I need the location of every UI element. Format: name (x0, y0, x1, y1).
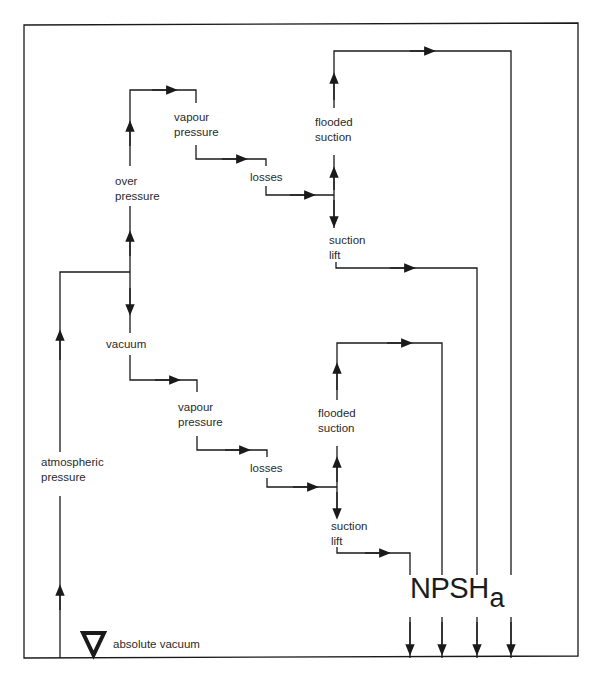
upper-vapour-line (196, 145, 266, 166)
over-pressure-label: over pressure (115, 174, 160, 204)
label-line: pressure (115, 189, 160, 204)
label-line: pressure (178, 415, 223, 430)
lower-losses-line (267, 478, 337, 487)
upper-losses-line (266, 186, 334, 195)
absolute-vacuum-label: absolute vacuum (113, 637, 200, 652)
label-line: lift (331, 534, 367, 549)
lower-suction-lift-label: suction lift (331, 519, 367, 549)
npsh-subscript: a (490, 583, 505, 613)
upper-vapour-pressure-label: vapour pressure (174, 110, 219, 140)
npsh-available-label: NPSHa (410, 572, 504, 605)
npsh-main-text: NPSH (410, 572, 489, 604)
label-line: lift (329, 248, 365, 263)
lower-suction-lift-line (337, 547, 410, 658)
label-line: over (115, 174, 160, 189)
upper-suction-lift-label: suction lift (329, 233, 365, 263)
atmospheric-pressure-label: atmospheric pressure (41, 455, 104, 485)
upper-flooded-line-upper (334, 51, 511, 658)
label-line: vapour (178, 400, 223, 415)
label-line: suction (329, 233, 365, 248)
atmospheric-pressure-line-top (60, 272, 130, 452)
label-line: suction (318, 421, 356, 436)
label-line: flooded (318, 406, 356, 421)
label-line: suction (331, 519, 367, 534)
lower-vapour-line (197, 436, 267, 457)
inverted-triangle-icon (83, 633, 104, 655)
label-line: vapour (174, 110, 219, 125)
label-line: flooded (315, 115, 353, 130)
lower-flooded-suction-label: flooded suction (318, 406, 356, 436)
lower-losses-label: losses (250, 461, 283, 476)
vacuum-label: vacuum (106, 337, 146, 352)
upper-losses-label: losses (250, 170, 283, 185)
label-line: pressure (41, 470, 104, 485)
label-line: suction (315, 130, 353, 145)
npsh-flow-diagram (0, 0, 596, 687)
label-line: atmospheric (41, 455, 104, 470)
label-line: pressure (174, 125, 219, 140)
lower-vapour-pressure-label: vapour pressure (178, 400, 223, 430)
vacuum-line-lower (130, 355, 197, 392)
upper-flooded-suction-label: flooded suction (315, 115, 353, 145)
